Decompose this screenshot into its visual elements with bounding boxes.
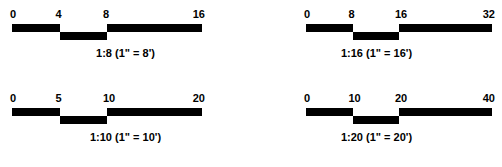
tick-label-mid2: 8 — [103, 8, 109, 21]
tick-label-end: 20 — [193, 92, 205, 105]
stepped-bar — [306, 108, 492, 124]
bar-segment-upper-left — [12, 24, 60, 32]
tick-label-row: 0 4 8 16 — [12, 8, 202, 23]
bar-segment-upper-right — [399, 24, 492, 32]
bar-segment-upper-left — [306, 24, 353, 32]
scale-bar-sheet: 0 4 8 16 1:8 (1" = 8') 0 8 16 32 — [0, 0, 502, 167]
bar-segment-lower-middle — [353, 32, 400, 40]
tick-label-end: 16 — [193, 8, 205, 21]
tick-label-end: 40 — [483, 92, 495, 105]
scale-bar-1-8: 0 4 8 16 1:8 (1" = 8') — [0, 0, 251, 83]
stepped-bar — [12, 108, 202, 124]
ruler-graphic-1-10: 0 5 10 20 — [12, 92, 202, 126]
tick-label-mid2: 16 — [395, 8, 407, 21]
tick-label-start: 0 — [10, 92, 16, 105]
tick-label-start: 0 — [10, 8, 16, 21]
stepped-bar — [306, 24, 492, 40]
tick-label-mid2: 20 — [395, 92, 407, 105]
scale-caption: 1:16 (1" = 16') — [251, 46, 502, 60]
tick-label-start: 0 — [304, 92, 310, 105]
tick-label-row: 0 10 20 40 — [306, 92, 492, 107]
tick-label-row: 0 5 10 20 — [12, 92, 202, 107]
scale-caption: 1:20 (1" = 20') — [251, 130, 502, 144]
tick-label-mid2: 10 — [103, 92, 115, 105]
tick-label-start: 0 — [304, 8, 310, 21]
tick-label-end: 32 — [483, 8, 495, 21]
bar-segment-lower-middle — [60, 32, 108, 40]
tick-label-mid1: 4 — [56, 8, 62, 21]
ruler-graphic-1-20: 0 10 20 40 — [306, 92, 492, 126]
ruler-graphic-1-8: 0 4 8 16 — [12, 8, 202, 42]
scale-caption: 1:10 (1" = 10') — [0, 130, 251, 144]
scale-caption: 1:8 (1" = 8') — [0, 46, 251, 60]
bar-segment-lower-middle — [60, 116, 108, 124]
scale-bar-1-10: 0 5 10 20 1:10 (1" = 10') — [0, 84, 251, 167]
bar-segment-lower-middle — [353, 116, 400, 124]
bar-segment-upper-right — [107, 24, 202, 32]
bar-segment-upper-left — [12, 108, 60, 116]
tick-label-mid1: 10 — [349, 92, 361, 105]
scale-bar-1-20: 0 10 20 40 1:20 (1" = 20') — [251, 84, 502, 167]
scale-bar-1-16: 0 8 16 32 1:16 (1" = 16') — [251, 0, 502, 83]
bar-segment-upper-right — [399, 108, 492, 116]
tick-label-mid1: 8 — [349, 8, 355, 21]
tick-label-mid1: 5 — [56, 92, 62, 105]
tick-label-row: 0 8 16 32 — [306, 8, 492, 23]
ruler-graphic-1-16: 0 8 16 32 — [306, 8, 492, 42]
bar-segment-upper-right — [107, 108, 202, 116]
bar-segment-upper-left — [306, 108, 353, 116]
stepped-bar — [12, 24, 202, 40]
